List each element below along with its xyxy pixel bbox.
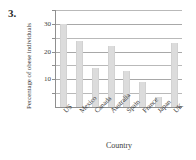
y-axis-line	[55, 10, 56, 107]
y-tick-label: 30	[44, 20, 51, 27]
y-tick-label: 20	[44, 48, 51, 55]
bar-series	[56, 10, 182, 107]
y-tick-label: 10	[44, 76, 51, 83]
bar-uk	[171, 43, 178, 107]
question-number: 3.	[8, 7, 16, 19]
y-axis-label: Percentage of obese individuals	[23, 14, 35, 118]
plot-area: 102030	[56, 10, 182, 107]
figure: 3. Percentage of obese individuals 10203…	[0, 0, 196, 160]
x-axis-tick-labels: USMexicoCanadaAustraliaSpainFranceJapanU…	[56, 109, 182, 141]
x-axis-label: Country	[56, 141, 182, 151]
bar-us	[60, 24, 67, 107]
bar-mexico	[76, 41, 83, 108]
